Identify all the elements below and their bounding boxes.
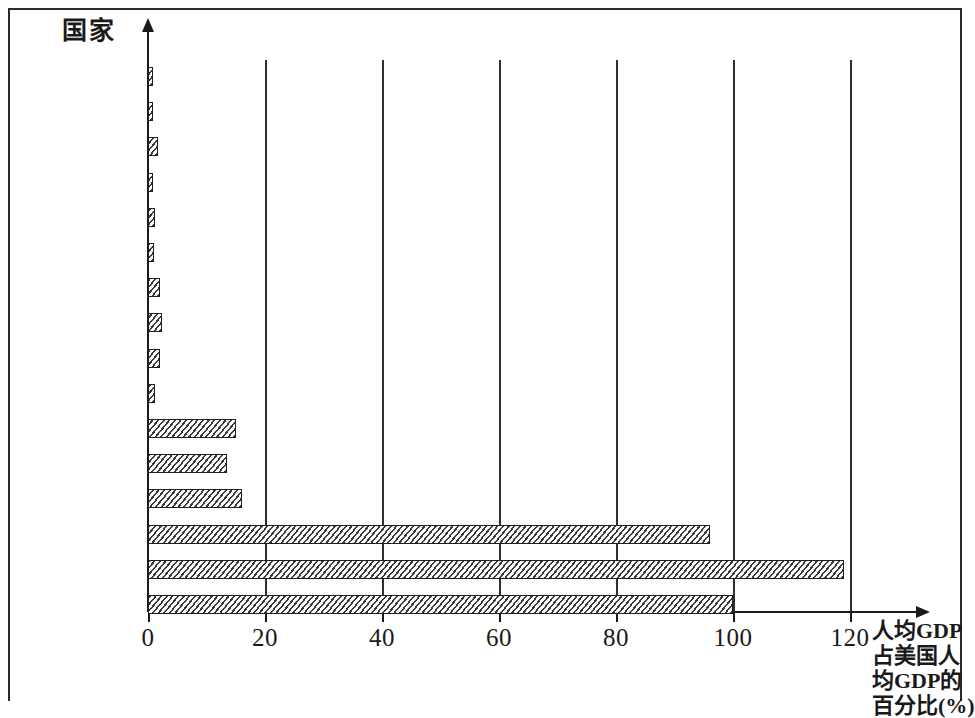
x-axis-arrow-icon — [916, 606, 930, 618]
bar-7 — [148, 313, 162, 332]
y-axis-title: 国家 — [62, 10, 116, 46]
bar-0 — [148, 67, 153, 86]
x-axis-title-line-4: 百分比(%) — [872, 693, 968, 718]
x-tick-label-0: 0 — [113, 623, 183, 653]
bar-12 — [148, 489, 242, 508]
bar-9 — [148, 384, 155, 403]
bar-4 — [148, 208, 155, 227]
x-axis-title-line-1: 人均GDP — [872, 618, 968, 643]
bar-6 — [148, 278, 160, 297]
gridline-100 — [733, 60, 735, 611]
x-tick-120 — [850, 611, 852, 622]
bar-1 — [148, 102, 153, 121]
bar-14 — [148, 560, 844, 579]
bar-5 — [148, 243, 154, 262]
bar-8 — [148, 349, 160, 368]
x-tick-label-100: 100 — [698, 623, 768, 653]
x-tick-100 — [733, 611, 735, 622]
x-axis-title-line-2: 占美国人 — [872, 643, 968, 668]
x-tick-label-20: 20 — [230, 623, 300, 653]
bar-13 — [148, 525, 710, 544]
x-tick-label-80: 80 — [581, 623, 651, 653]
bar-3 — [148, 173, 153, 192]
gridline-120 — [850, 60, 852, 611]
bar-15 — [148, 595, 733, 614]
x-tick-label-40: 40 — [347, 623, 417, 653]
x-axis-title-line-3: 均GDP的 — [872, 668, 968, 693]
bar-2 — [148, 137, 158, 156]
y-axis-arrow-icon — [142, 18, 154, 32]
x-axis-title: 人均GDP 占美国人 均GDP的 百分比(%) — [872, 618, 968, 718]
bar-10 — [148, 419, 236, 438]
x-tick-label-60: 60 — [464, 623, 534, 653]
bar-11 — [148, 454, 227, 473]
